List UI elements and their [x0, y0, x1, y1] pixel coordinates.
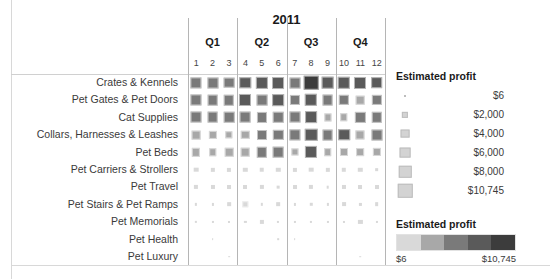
matrix-cell[interactable]: [224, 77, 235, 88]
matrix-cell[interactable]: [191, 95, 202, 106]
matrix-cell[interactable]: [371, 77, 383, 89]
matrix-cell[interactable]: [289, 77, 300, 88]
matrix-cell[interactable]: [310, 221, 312, 223]
matrix-cell[interactable]: [256, 95, 267, 106]
matrix-cell[interactable]: [207, 95, 218, 106]
row-label[interactable]: Pet Health: [12, 231, 184, 248]
row-label[interactable]: Cat Supplies: [12, 109, 184, 126]
matrix-cell[interactable]: [257, 147, 267, 157]
matrix-cell[interactable]: [260, 167, 265, 172]
matrix-cell[interactable]: [224, 95, 234, 105]
matrix-cell[interactable]: [256, 77, 268, 89]
matrix-cell[interactable]: [207, 77, 218, 88]
matrix-cell[interactable]: [243, 167, 247, 171]
matrix-cell[interactable]: [291, 149, 298, 156]
row-label[interactable]: Pet Memorials: [12, 213, 184, 230]
matrix-cell[interactable]: [294, 238, 296, 240]
matrix-cell[interactable]: [354, 77, 366, 89]
matrix-cell[interactable]: [241, 131, 249, 139]
matrix-cell[interactable]: [326, 186, 329, 189]
matrix-cell[interactable]: [272, 94, 284, 106]
matrix-cell[interactable]: [338, 76, 350, 88]
matrix-cell[interactable]: [195, 221, 197, 223]
matrix-cell[interactable]: [225, 131, 232, 138]
matrix-cell[interactable]: [326, 203, 328, 205]
matrix-cell[interactable]: [305, 129, 317, 141]
matrix-cell[interactable]: [324, 148, 332, 156]
matrix-cell[interactable]: [276, 167, 280, 171]
matrix-cell[interactable]: [372, 95, 382, 105]
row-label[interactable]: Collars, Harnesses & Leashes: [12, 126, 184, 143]
size-legend-item[interactable]: $6,000: [396, 143, 546, 162]
matrix-cell[interactable]: [358, 185, 362, 189]
matrix-cell[interactable]: [244, 221, 246, 223]
size-legend-item[interactable]: $2,000: [396, 105, 546, 124]
matrix-cell[interactable]: [294, 203, 296, 205]
matrix-cell[interactable]: [338, 129, 350, 141]
matrix-cell[interactable]: [372, 112, 382, 122]
size-legend-item[interactable]: $6: [396, 86, 546, 105]
size-legend-item[interactable]: $4,000: [396, 124, 546, 143]
matrix-cell[interactable]: [195, 203, 197, 205]
matrix-cell[interactable]: [227, 185, 231, 189]
matrix-cell[interactable]: [273, 130, 283, 140]
row-label[interactable]: Pet Gates & Pet Doors: [12, 91, 184, 108]
matrix-cell[interactable]: [276, 203, 280, 207]
row-label[interactable]: Pet Travel: [12, 178, 184, 195]
matrix-cell[interactable]: [375, 168, 379, 172]
matrix-cell[interactable]: [273, 147, 284, 158]
matrix-cell[interactable]: [191, 77, 202, 88]
matrix-cell[interactable]: [343, 221, 345, 223]
matrix-cell[interactable]: [241, 148, 250, 157]
matrix-cell[interactable]: [289, 129, 300, 140]
matrix-cell[interactable]: [358, 220, 362, 224]
matrix-cell[interactable]: [228, 221, 230, 223]
matrix-cell[interactable]: [358, 167, 362, 171]
matrix-cell[interactable]: [359, 203, 361, 205]
matrix-cell[interactable]: [304, 75, 319, 90]
matrix-cell[interactable]: [192, 130, 201, 139]
matrix-cell[interactable]: [309, 167, 314, 172]
matrix-cell[interactable]: [324, 114, 331, 121]
matrix-cell[interactable]: [342, 203, 346, 207]
matrix-cell[interactable]: [356, 148, 364, 156]
row-label[interactable]: Pet Beds: [12, 144, 184, 161]
matrix-cell[interactable]: [212, 238, 214, 240]
matrix-cell[interactable]: [227, 203, 231, 207]
matrix-cell[interactable]: [194, 167, 199, 172]
matrix-cell[interactable]: [375, 185, 379, 189]
matrix-cell[interactable]: [239, 94, 251, 106]
row-label[interactable]: Pet Carriers & Strollers: [12, 161, 184, 178]
matrix-cell[interactable]: [360, 256, 362, 258]
matrix-cell[interactable]: [289, 112, 300, 123]
matrix-cell[interactable]: [355, 112, 365, 122]
matrix-cell[interactable]: [194, 185, 198, 189]
matrix-cell[interactable]: [211, 185, 215, 189]
matrix-cell[interactable]: [277, 221, 279, 223]
matrix-cell[interactable]: [373, 148, 381, 156]
matrix-cell[interactable]: [243, 202, 248, 207]
matrix-cell[interactable]: [356, 96, 365, 105]
matrix-cell[interactable]: [310, 203, 312, 205]
matrix-cell[interactable]: [277, 238, 279, 240]
matrix-cell[interactable]: [192, 148, 200, 156]
matrix-cell[interactable]: [227, 168, 231, 172]
matrix-cell[interactable]: [305, 112, 317, 124]
matrix-cell[interactable]: [375, 203, 379, 207]
matrix-cell[interactable]: [356, 130, 365, 139]
matrix-cell[interactable]: [322, 129, 333, 140]
row-label[interactable]: Crates & Kennels: [12, 74, 184, 91]
matrix-cell[interactable]: [326, 221, 328, 223]
matrix-cell[interactable]: [209, 131, 217, 139]
matrix-cell[interactable]: [290, 95, 300, 105]
matrix-cell[interactable]: [339, 95, 349, 105]
matrix-cell[interactable]: [305, 146, 317, 158]
matrix-cell[interactable]: [260, 185, 264, 189]
matrix-cell[interactable]: [340, 148, 348, 156]
matrix-cell[interactable]: [212, 203, 214, 205]
matrix-cell[interactable]: [277, 186, 280, 189]
matrix-cell[interactable]: [309, 185, 313, 189]
matrix-cell[interactable]: [272, 77, 284, 89]
matrix-cell[interactable]: [260, 220, 264, 224]
matrix-cell[interactable]: [376, 221, 378, 223]
